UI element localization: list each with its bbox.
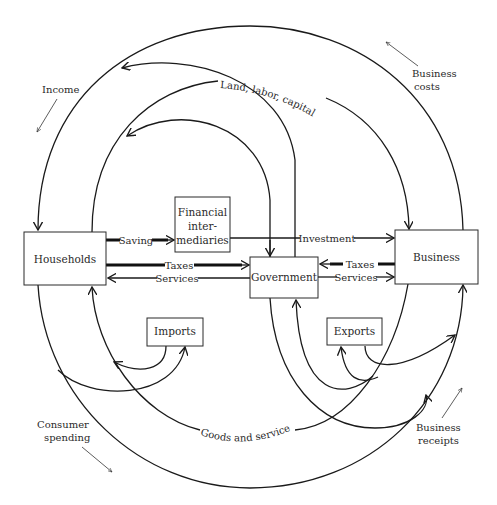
government-node: Government — [250, 257, 318, 298]
business-costs-annotation-2: costs — [414, 81, 440, 92]
imports-label: Imports — [154, 325, 196, 337]
imports-in-arc — [58, 347, 185, 391]
financial-label-2: inter- — [188, 220, 218, 232]
income-annotation: Income — [42, 84, 79, 95]
business-costs-direction-arrow — [386, 42, 418, 66]
business-costs-annotation-1: Business — [412, 68, 457, 79]
business-receipts-annotation-1: Business — [416, 422, 461, 433]
income-flow-arc — [38, 26, 463, 230]
financial-label-1: Financial — [178, 206, 228, 218]
households-taxes-label: Taxes — [165, 260, 194, 271]
financial-intermediaries-node: Financial inter- mediaries — [175, 197, 230, 252]
business-services-label: Services — [334, 272, 377, 283]
investment-label: Investment — [299, 233, 356, 244]
imports-out-arc — [114, 346, 166, 369]
saving-label: Saving — [119, 235, 154, 246]
goods-services-arc — [92, 284, 408, 430]
exports-node: Exports — [327, 318, 382, 345]
households-node: Households — [24, 232, 106, 285]
business-receipts-direction-arrow — [442, 388, 462, 418]
financial-label-3: mediaries — [176, 234, 229, 246]
business-receipts-annotation-2: receipts — [418, 435, 459, 446]
land-labor-capital-arc — [92, 81, 409, 232]
consumer-spending-arc — [38, 285, 463, 488]
imports-node: Imports — [147, 318, 203, 346]
government-label: Government — [251, 271, 318, 283]
consumer-spending-direction-arrow — [82, 447, 112, 472]
circular-flow-diagram: Households Financial inter- mediaries Go… — [0, 0, 497, 505]
business-taxes-label: Taxes — [346, 259, 375, 270]
land-labor-capital-label: Land, labor, capital — [220, 79, 317, 118]
consumer-spending-annotation-1: Consumer — [37, 419, 89, 430]
business-label: Business — [413, 251, 460, 263]
households-label: Households — [34, 253, 96, 265]
households-services-label: Services — [155, 273, 198, 284]
business-node: Business — [395, 230, 478, 284]
income-direction-arrow — [37, 99, 57, 132]
goods-and-services-label: Goods and services — [0, 0, 292, 443]
exports-label: Exports — [334, 325, 375, 337]
consumer-spending-annotation-2: spending — [44, 432, 91, 443]
